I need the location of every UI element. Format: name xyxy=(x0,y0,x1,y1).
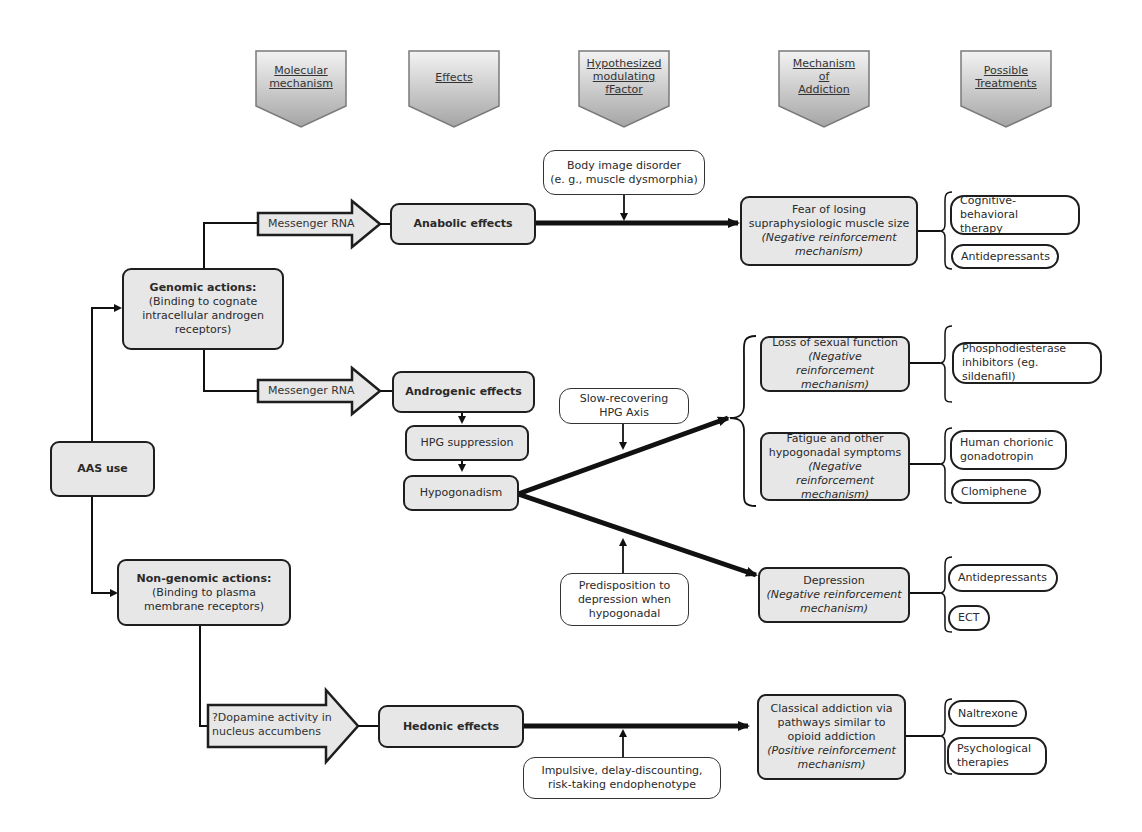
label-dopamine-activity: ?Dopamine activity innucleus accumbens xyxy=(212,711,332,739)
sexual-fatigue-brace xyxy=(730,336,756,506)
node-nongenomic-actions: Non-genomic actions: (Binding to plasma … xyxy=(117,559,291,626)
treatment-cognitive-behavioral-therapy: Cognitive-behavioral therapy xyxy=(950,195,1080,235)
factor-body-image-disorder: Body image disorder (e. g., muscle dysmo… xyxy=(543,150,705,195)
node-androgenic-effects: Androgenic effects xyxy=(392,371,535,413)
header-molecular-mechanism: Molecularmechanism xyxy=(255,50,347,128)
root-to-nongenomic-line xyxy=(92,495,116,593)
factor-impulsive-endophenotype: Impulsive, delay-discounting, risk-takin… xyxy=(523,757,721,799)
factor-slow-recovering-hpg: Slow-recovering HPG Axis xyxy=(559,388,689,424)
genomic-to-mrna1-line xyxy=(204,223,258,268)
treatment-antidepressants-2: Antidepressants xyxy=(948,564,1058,592)
label-messenger-rna-2: Messenger RNA xyxy=(268,384,355,398)
label-messenger-rna-1: Messenger RNA xyxy=(268,217,355,231)
root-to-genomic-line xyxy=(92,308,120,443)
node-genomic-actions: Genomic actions: (Binding to cognate int… xyxy=(122,268,284,350)
node-classical-addiction: Classical addiction via pathways similar… xyxy=(757,694,906,780)
node-hpg-suppression: HPG suppression xyxy=(405,425,529,461)
factor-predisposition-depression: Predisposition to depression when hypogo… xyxy=(560,573,689,626)
treatment-ect: ECT xyxy=(948,605,990,631)
treatment-naltrexone: Naltrexone xyxy=(948,700,1027,727)
treatment-clomiphene: Clomiphene xyxy=(951,479,1041,504)
header-hypothesized-factor: HypothesizedmodulatingfFactor xyxy=(578,50,670,128)
node-aas-use: AAS use xyxy=(50,441,155,497)
treatment-human-chorionic-gonadotropin: Human chorionic gonadotropin xyxy=(950,430,1067,470)
header-mechanism-of-addiction: MechanismofAddiction xyxy=(778,50,870,128)
genomic-to-mrna2-line xyxy=(204,350,258,391)
node-fatigue-hypogonadal: Fatigue and other hypogonadal symptoms (… xyxy=(760,432,910,501)
node-loss-of-sexual-function: Loss of sexual function (Negative reinfo… xyxy=(760,336,910,392)
node-anabolic-effects: Anabolic effects xyxy=(390,203,536,245)
treatment-antidepressants-1: Antidepressants xyxy=(951,244,1059,269)
node-hypogonadism: Hypogonadism xyxy=(403,475,519,511)
treatment-psychological-therapies: Psychological therapies xyxy=(947,737,1047,775)
hypogonadism-to-depression-arrow xyxy=(518,494,756,575)
treatment-phosphodiesterase-inhibitors: Phosphodiesterase inhibitors (eg. silden… xyxy=(952,342,1102,384)
header-effects: Effects xyxy=(408,50,500,128)
node-hedonic-effects: Hedonic effects xyxy=(378,705,524,748)
node-depression: Depression (Negative reinforcement mecha… xyxy=(758,567,910,623)
pentagon-arrow-icon xyxy=(408,50,500,128)
node-fear-losing-muscle: Fear of losing supraphysiologic muscle s… xyxy=(740,196,918,266)
header-possible-treatments: PossibleTreatments xyxy=(960,50,1052,128)
